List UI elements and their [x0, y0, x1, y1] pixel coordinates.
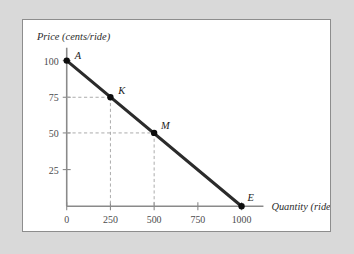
y-tick-label-75: 75	[49, 92, 59, 103]
data-point-label-a: A	[74, 50, 82, 61]
data-point-m	[151, 130, 157, 136]
x-tick-label-500: 500	[147, 214, 162, 225]
data-point-k	[107, 94, 113, 100]
x-axis-title: Quantity (rides/day)	[271, 201, 330, 213]
y-tick-label-25: 25	[49, 165, 59, 176]
y-axis-title: Price (cents/ride)	[36, 31, 111, 43]
x-tick-label-0: 0	[64, 214, 69, 225]
x-tick-label-750: 750	[190, 214, 205, 225]
x-tick-label-1000: 1000	[232, 214, 252, 225]
demand-curve-chart: Price (cents/ride) 100 75 50 25 0 250 50…	[23, 20, 330, 231]
x-tick-label-250: 250	[103, 214, 118, 225]
data-point-label-k: K	[117, 85, 126, 96]
data-point-label-m: M	[160, 120, 171, 131]
figure-panel: Price (cents/ride) 100 75 50 25 0 250 50…	[22, 19, 331, 232]
y-tick-label-100: 100	[44, 56, 59, 67]
y-tick-label-50: 50	[49, 128, 59, 139]
data-point-e	[238, 203, 244, 209]
data-point-a	[64, 57, 70, 63]
data-point-label-e: E	[247, 192, 255, 203]
